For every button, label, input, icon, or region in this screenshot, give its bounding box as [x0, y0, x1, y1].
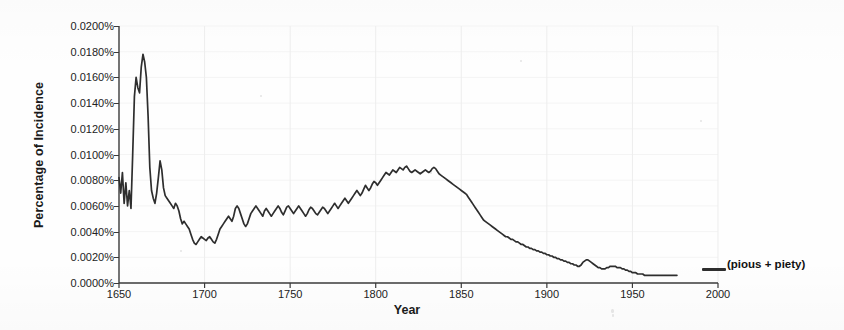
- scan-speck: [611, 309, 614, 313]
- scan-speck: [520, 60, 522, 62]
- x-axis-tick-label: 1950: [620, 288, 644, 300]
- scan-speck: [612, 314, 614, 317]
- scan-speck: [260, 95, 262, 97]
- gridlines: [119, 26, 718, 283]
- x-axis-title: Year: [0, 303, 844, 317]
- x-axis-tick-label: 2000: [706, 288, 730, 300]
- x-axis-tick-label: 1850: [449, 288, 473, 300]
- x-axis-tick-label: 1900: [535, 288, 559, 300]
- series-line-pious-piety: [119, 54, 677, 275]
- legend-label: (pious + piety): [727, 258, 805, 270]
- x-axis-title-text: Year: [394, 303, 420, 317]
- scan-speck: [700, 120, 702, 122]
- x-axis-tick-label: 1650: [107, 288, 131, 300]
- x-axis-tick-label: 1700: [192, 288, 216, 300]
- x-axis-tick-label: 1800: [363, 288, 387, 300]
- scan-speck: [430, 172, 432, 174]
- plot-area: [0, 0, 844, 330]
- chart-figure: Percentage of Incidence 0.0200%0.0180%0.…: [0, 0, 844, 330]
- x-axis-tick-label: 1750: [278, 288, 302, 300]
- legend-line-swatch: [702, 268, 726, 271]
- scan-speck: [180, 250, 182, 252]
